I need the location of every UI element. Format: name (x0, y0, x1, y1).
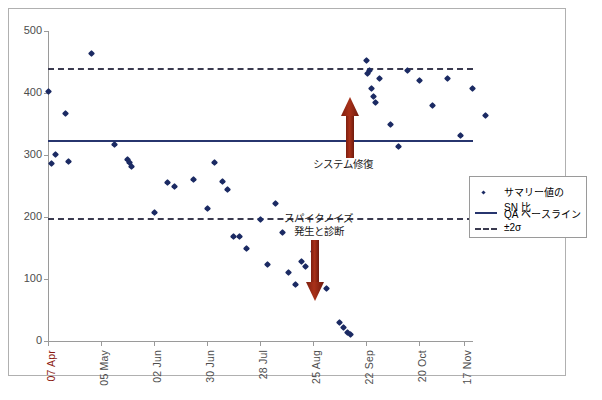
x-tick-label-17-nov: 17 Nov (461, 350, 473, 384)
y-tick-label-400-text: 400 (2, 87, 42, 98)
annotation-system-repair-line1: システム修復 (313, 158, 373, 171)
x-tick-6 (366, 341, 367, 346)
y-tick-label-0-text: 0 (2, 335, 42, 346)
data-point (429, 102, 436, 109)
y-tick-label-500-text: 500 (2, 25, 42, 36)
data-point (368, 84, 375, 91)
legend-dashed-line-icon (475, 228, 497, 230)
data-point (128, 163, 135, 170)
data-point (292, 281, 299, 288)
data-point (171, 183, 178, 190)
annotation-spike-noise-line1: スパイクノイズ (284, 212, 353, 225)
chart-legend: サマリー値の SN 比 QA ベースライン ±2σ (469, 176, 587, 238)
data-point (376, 75, 383, 82)
y-tick-300 (44, 155, 49, 156)
annotation-spike-noise-line2: 発生と診断 (284, 225, 353, 238)
x-tick-5 (313, 341, 314, 346)
qa-baseline-line (48, 140, 473, 142)
x-tick-label-28-jul: 28 Jul (257, 350, 269, 379)
legend-entry-sn-ratio-line1: サマリー値の (504, 184, 564, 199)
data-point (224, 186, 231, 193)
scatter-plot-canvas: 500 400 300 200 100 0 07 Apr 05 May 02 J… (0, 0, 602, 400)
legend-solid-line-icon (475, 212, 497, 214)
annotation-system-repair: システム修復 (313, 158, 373, 171)
data-point (203, 205, 210, 212)
data-point (285, 269, 292, 276)
data-point (362, 57, 369, 64)
x-tick-label-30-jun: 30 Jun (204, 350, 216, 383)
data-point (236, 233, 243, 240)
data-point (272, 200, 279, 207)
data-point (219, 178, 226, 185)
x-tick-label-07-apr: 07 Apr (45, 350, 57, 382)
x-tick-4 (260, 341, 261, 346)
x-tick-label-05-may: 05 May (98, 350, 110, 386)
data-point (264, 261, 271, 268)
data-point (65, 158, 72, 165)
y-tick-100 (44, 279, 49, 280)
y-tick-label-300-text: 300 (2, 149, 42, 160)
data-point (61, 110, 68, 117)
x-tick-label-20-oct: 20 Oct (416, 350, 428, 382)
data-point (211, 159, 218, 166)
data-point (387, 120, 394, 127)
x-tick-2 (154, 341, 155, 346)
y-tick-label-300: 300 (0, 149, 42, 161)
y-tick-label-0: 0 (0, 335, 42, 347)
system-repair-up-arrow-icon (340, 96, 360, 158)
data-point (468, 84, 475, 91)
data-point (372, 99, 379, 106)
x-tick-label-25-aug: 25 Aug (310, 350, 322, 384)
data-point (243, 244, 250, 251)
x-tick-8 (464, 341, 465, 346)
y-tick-label-200: 200 (0, 211, 42, 223)
data-point (347, 331, 354, 338)
data-point (457, 132, 464, 139)
legend-entry-qa-baseline: QA ベースライン (504, 206, 581, 221)
data-point (190, 176, 197, 183)
y-tick-500 (44, 31, 49, 32)
data-point (48, 160, 55, 167)
data-point (415, 77, 422, 84)
data-point (52, 151, 59, 158)
y-tick-label-500: 500 (0, 25, 42, 37)
y-tick-label-400: 400 (0, 87, 42, 99)
x-tick-3 (207, 341, 208, 346)
x-tick-0 (48, 341, 49, 346)
legend-entry-2-sigma: ±2σ (504, 222, 521, 233)
data-point (395, 143, 402, 150)
y-tick-label-100: 100 (0, 273, 42, 285)
legend-marker-icon (481, 190, 485, 194)
data-point (256, 216, 263, 223)
x-tick-1 (101, 341, 102, 346)
y-tick-label-200-text: 200 (2, 211, 42, 222)
y-tick-label-100-text: 100 (2, 273, 42, 284)
data-point (88, 50, 95, 57)
data-point (164, 179, 171, 186)
x-tick-7 (419, 341, 420, 346)
spike-noise-down-arrow-icon (305, 240, 325, 302)
y-axis-line (48, 31, 49, 342)
annotation-spike-noise: スパイクノイズ 発生と診断 (284, 212, 353, 238)
data-point (150, 208, 157, 215)
x-tick-label-02-jun: 02 Jun (151, 350, 163, 383)
x-tick-label-22-sep: 22 Sep (363, 350, 375, 384)
data-point (444, 75, 451, 82)
data-point (482, 112, 489, 119)
